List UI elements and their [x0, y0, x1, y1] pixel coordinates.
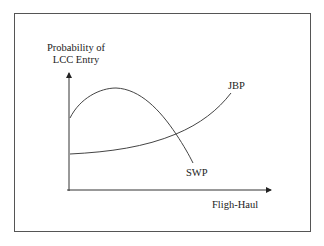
chart-plot — [0, 0, 324, 246]
y-axis-label-line1: Probability of — [45, 42, 107, 54]
y-axis-label: Probability of LCC Entry — [45, 42, 107, 66]
jbp-series-label: JBP — [228, 80, 245, 92]
x-axis-label: Fligh-Haul — [212, 199, 258, 211]
y-axis-label-line2: LCC Entry — [45, 54, 107, 66]
swp-curve — [70, 88, 193, 163]
swp-series-label: SWP — [186, 167, 208, 179]
jbp-curve — [70, 93, 231, 154]
